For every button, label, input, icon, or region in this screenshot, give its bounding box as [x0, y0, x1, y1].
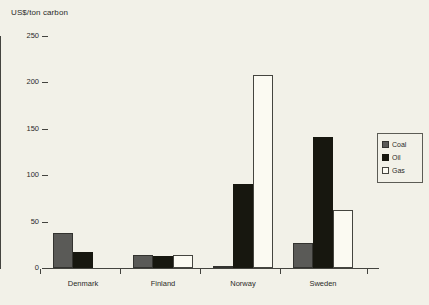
y-tick-0	[42, 268, 48, 269]
x-tick-0	[40, 269, 41, 274]
bar-finland-gas	[173, 255, 193, 268]
x-tick-3	[280, 269, 281, 274]
y-tick-label-0: 0	[35, 263, 39, 272]
bar-norway-coal	[213, 266, 233, 268]
legend-item-coal: Coal	[382, 138, 422, 151]
legend-label-gas: Gas	[392, 167, 405, 174]
y-tick-label-wrap: 100	[0, 170, 39, 180]
bar-norway-gas	[253, 75, 273, 268]
bar-norway-oil	[233, 184, 253, 268]
x-label-denmark: Denmark	[39, 279, 127, 288]
x-label-norway: Norway	[199, 279, 287, 288]
y-tick-label-50: 50	[31, 217, 39, 226]
bar-denmark-oil	[73, 252, 93, 268]
legend-swatch-oil-icon	[382, 154, 389, 161]
plot-area	[47, 36, 378, 268]
legend-label-coal: Coal	[392, 141, 406, 148]
x-label-finland: Finland	[119, 279, 207, 288]
y-tick-label-wrap: 150	[0, 124, 39, 134]
chart-legend: Coal Oil Gas	[377, 133, 423, 183]
y-tick-label-wrap: 200	[0, 77, 39, 87]
bar-denmark-coal	[53, 233, 73, 268]
y-tick-label-200: 200	[26, 77, 39, 86]
y-axis-line	[0, 36, 1, 269]
x-label-sweden: Sweden	[279, 279, 367, 288]
legend-item-oil: Oil	[382, 151, 422, 164]
legend-label-oil: Oil	[392, 154, 401, 161]
x-tick-end	[367, 269, 368, 274]
bar-sweden-oil	[313, 137, 333, 268]
bar-chart: US$/ton carbon 050100150200250 DenmarkFi…	[0, 0, 429, 305]
y-tick-label-150: 150	[26, 124, 39, 133]
x-axis-line	[47, 268, 379, 269]
y-axis-title: US$/ton carbon	[11, 8, 68, 17]
y-tick-label-250: 250	[26, 31, 39, 40]
y-tick-label-wrap: 0	[0, 263, 39, 273]
legend-swatch-coal-icon	[382, 141, 389, 148]
y-tick-label-100: 100	[26, 170, 39, 179]
legend-item-gas: Gas	[382, 164, 422, 177]
y-tick-label-wrap: 50	[0, 217, 39, 227]
bar-sweden-gas	[333, 210, 353, 268]
bar-sweden-coal	[293, 243, 313, 268]
x-tick-2	[200, 269, 201, 274]
y-tick-label-wrap: 250	[0, 31, 39, 41]
x-tick-1	[120, 269, 121, 274]
legend-swatch-gas-icon	[382, 167, 389, 174]
bar-finland-oil	[153, 256, 173, 268]
bar-finland-coal	[133, 255, 153, 268]
